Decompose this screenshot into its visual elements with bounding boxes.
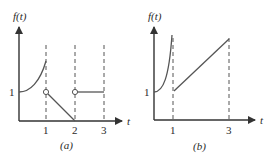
x-tick-2: 2	[72, 124, 78, 136]
x-tick-1: 1	[170, 124, 176, 136]
y-axis-label: f(t)	[13, 10, 27, 23]
x-axis-label: t	[127, 115, 131, 127]
x-tick-3: 3	[226, 124, 232, 136]
panel-a: f(t) t 1 1 2 3 (a)	[9, 10, 131, 152]
y-tick-1: 1	[144, 86, 150, 98]
curve-segment-1	[19, 61, 46, 92]
x-axis-label: t	[260, 114, 264, 126]
line-segment-2	[48, 94, 75, 121]
x-tick-3: 3	[101, 124, 107, 136]
piecewise-function-figure: f(t) t 1 1 2 3 (a) f(t) t 1 1 3 (b)	[0, 0, 270, 162]
y-tick-1: 1	[9, 86, 15, 98]
panel-caption-b: (b)	[193, 140, 206, 153]
curve-segment-1	[154, 35, 172, 92]
y-axis-label: f(t)	[148, 10, 162, 23]
open-circle-t2	[72, 89, 77, 94]
line-segment-2	[174, 39, 229, 91]
panel-caption-a: (a)	[60, 139, 73, 152]
x-tick-1: 1	[43, 124, 49, 136]
panel-b: f(t) t 1 1 3 (b)	[144, 10, 264, 153]
open-circle-t1	[43, 89, 48, 94]
